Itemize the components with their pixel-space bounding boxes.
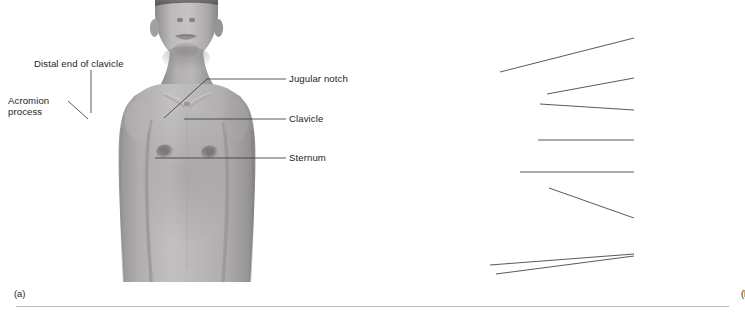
label-jugular-notch: Jugular notch: [289, 73, 348, 84]
anterior-thorax-photo: [118, 0, 258, 282]
figure-bottom-rule: [16, 306, 729, 307]
panel-caption-a: (a): [14, 288, 25, 299]
panel-caption-b: (b): [741, 288, 745, 299]
label-sternum: Sternum: [289, 152, 326, 163]
label-acromion-process: Acromion process: [8, 95, 49, 118]
anatomy-figure: Distal end of clavicle Acromion process …: [0, 0, 745, 321]
label-clavicle: Clavicle: [289, 113, 323, 124]
panel-a-anterior: Distal end of clavicle Acromion process …: [0, 0, 372, 300]
label-distal-end-of-clavicle: Distal end of clavicle: [34, 58, 124, 69]
panel-b-posterior: Spinous process of seventh cervical vert…: [372, 0, 745, 300]
